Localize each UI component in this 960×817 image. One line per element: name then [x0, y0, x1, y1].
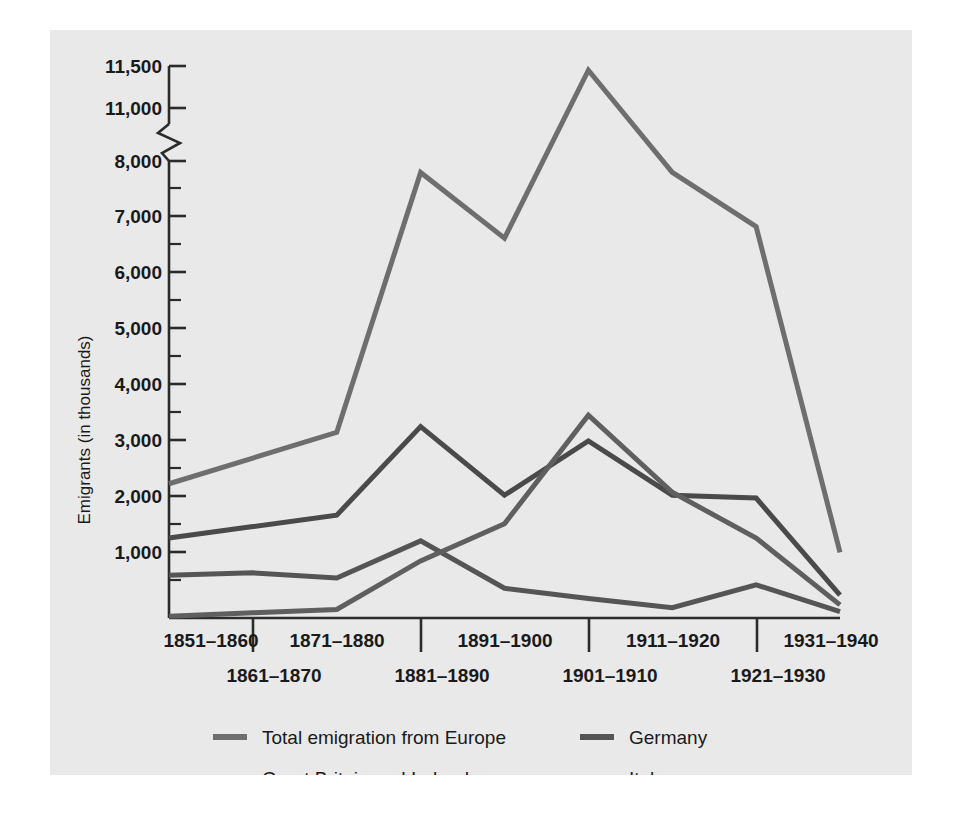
x-tick-label-1871-1880: 1871–1880 [289, 630, 384, 651]
y-tick-label-11000: 11,000 [105, 98, 162, 119]
legend-label: Total emigration from Europe [262, 727, 506, 748]
x-tick-label-1921-1930: 1921–1930 [730, 665, 825, 686]
series-group [169, 70, 840, 616]
y-axis-title: Emigrants (in thousands) [75, 336, 94, 525]
x-tick-label-1881-1890: 1881–1890 [394, 665, 489, 686]
y-tick-label-2000: 2,000 [114, 486, 162, 507]
x-tick-label-1891-1900: 1891–1900 [457, 630, 552, 651]
legend-item-germany[interactable]: Germany [580, 727, 708, 748]
x-tick-label-1901-1910: 1901–1910 [562, 665, 657, 686]
y-tick-label-11500: 11,500 [105, 56, 162, 77]
y-tick-label-4000: 4,000 [114, 374, 162, 395]
legend: Total emigration from Europe Germany Gre… [213, 727, 708, 775]
x-tick-label-1911-1920: 1911–1920 [626, 630, 720, 651]
legend-item-italy[interactable]: Italy [580, 768, 664, 775]
x-tick-label-1851-1860: 1851–1860 [163, 630, 258, 651]
x-axis: 1851–1860 1871–1880 1891–1900 1911–1920 … [163, 618, 878, 686]
legend-item-total-emigration-from-europe[interactable]: Total emigration from Europe [213, 727, 506, 748]
y-tick-label-8000: 8,000 [114, 151, 162, 172]
emigration-line-chart: 11,500 11,000 8,000 7,000 6,000 5,000 4,… [50, 30, 912, 775]
y-tick-label-5000: 5,000 [114, 318, 162, 339]
x-tick-label-1861-1870: 1861–1870 [226, 665, 321, 686]
y-tick-label-3000: 3,000 [114, 430, 162, 451]
y-tick-label-1000: 1,000 [114, 542, 162, 563]
y-tick-label-7000: 7,000 [114, 206, 162, 227]
series-line-total-emigration-from-europe [169, 70, 840, 552]
series-line-germany [169, 541, 840, 612]
y-axis: 11,500 11,000 8,000 7,000 6,000 5,000 4,… [75, 56, 186, 618]
y-tick-label-6000: 6,000 [114, 262, 162, 283]
legend-label: Italy [629, 768, 664, 775]
x-tick-label-1931-1940: 1931–1940 [783, 630, 878, 651]
legend-label: Great Britain and Ireland [262, 768, 469, 775]
legend-label: Germany [629, 727, 708, 748]
legend-item-great-britain-and-ireland[interactable]: Great Britain and Ireland [213, 768, 469, 775]
chart-figure: 11,500 11,000 8,000 7,000 6,000 5,000 4,… [50, 30, 912, 775]
